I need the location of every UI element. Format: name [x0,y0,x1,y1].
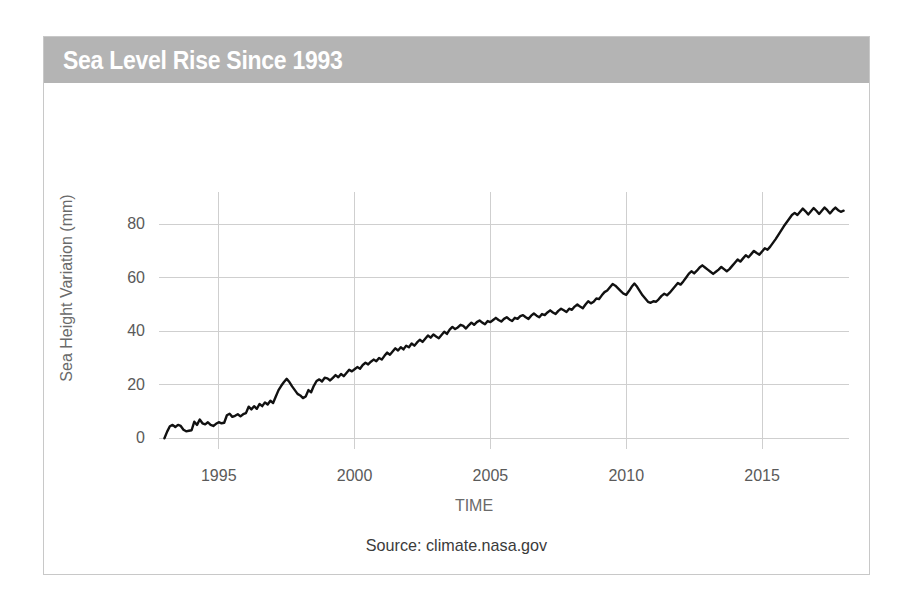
source-note: Source: climate.nasa.gov [65,536,849,556]
data-line-sea-height [164,208,843,439]
x-tick-labels-group: 19952000200520102015 [201,467,780,484]
x-tick-label: 2015 [744,467,780,484]
y-axis-title: Sea Height Variation (mm) [58,194,75,381]
y-tick-label: 20 [127,376,145,393]
x-tick-label: 2010 [608,467,644,484]
x-tick-label: 2005 [473,467,509,484]
y-tick-label: 0 [136,429,145,446]
y-tick-label: 60 [127,269,145,286]
x-tick-label: 1995 [201,467,237,484]
y-tick-labels-group: 020406080 [127,215,145,446]
chart-plot-area: 020406080 19952000200520102015 Sea Heigh… [44,83,869,576]
chart-title-band: Sea Level Rise Since 1993 [44,37,869,83]
x-axis-title: TIME [455,497,493,514]
chart-figure-card: Sea Level Rise Since 1993 020406080 1995… [43,36,870,575]
y-tick-label: 80 [127,215,145,232]
sea-level-line-chart: 020406080 19952000200520102015 Sea Heigh… [44,83,871,523]
chart-title: Sea Level Rise Since 1993 [63,46,343,75]
y-tick-label: 40 [127,322,145,339]
x-tick-label: 2000 [337,467,373,484]
